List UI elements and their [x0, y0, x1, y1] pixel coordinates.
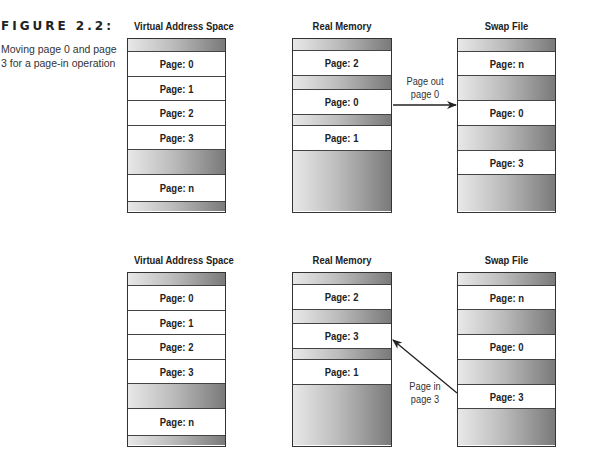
page-slot: Page: 2: [128, 334, 225, 359]
arrow-label-line: page 3: [401, 393, 449, 406]
page-slot: Page: 3: [458, 384, 555, 408]
unused-region: [293, 39, 391, 50]
page-slot: Page: 0: [458, 334, 555, 359]
unused-region: [128, 149, 225, 174]
arrow-label-line: Page out: [399, 75, 450, 88]
page-slot: Page: 0: [128, 285, 225, 310]
page-label: Page: n: [489, 292, 523, 304]
page-label: Page: 3: [325, 330, 359, 342]
page-slot: Page: 3: [128, 359, 225, 383]
real-memory-box: Page: 2 Page: 3 Page: 1: [292, 272, 392, 447]
page-label: Page: 1: [325, 366, 359, 378]
arrow-label-line: page 0: [399, 88, 450, 101]
unused-region: [458, 359, 555, 384]
unused-region: [458, 125, 555, 150]
page-label: Page: 3: [160, 132, 194, 144]
page-label: Page: 2: [160, 341, 194, 353]
arrow-label-line: Page in: [401, 380, 449, 393]
swap-file-box: Page: n Page: 0 Page: 3: [457, 38, 556, 213]
page-label: Page: 2: [325, 57, 359, 69]
page-slot: Page: 0: [128, 51, 225, 76]
swap-file-box: Page: n Page: 0 Page: 3: [457, 272, 556, 447]
unused-region: [458, 408, 555, 445]
page-label: Page: 0: [490, 107, 524, 119]
page-slot: Page: 1: [128, 310, 225, 334]
page-slot: Page: 0: [293, 89, 391, 114]
page-label: Page: 1: [160, 317, 194, 329]
column-title-virtual-address-space: Virtual Address Space: [134, 254, 219, 266]
unused-region: [128, 201, 225, 211]
column-title-real-memory: Real Memory: [299, 20, 385, 32]
page-in-label: Page in page 3: [401, 380, 449, 406]
page-label: Page: n: [159, 182, 193, 194]
page-label: Page: 3: [490, 391, 524, 403]
page-label: Page: n: [489, 58, 523, 70]
unused-region: [458, 39, 555, 51]
unused-region: [458, 174, 555, 211]
page-label: Page: 0: [160, 292, 194, 304]
page-label: Page: 2: [325, 291, 359, 303]
virtual-address-space-box: Page: 0 Page: 1 Page: 2 Page: 3 Page: n: [127, 272, 226, 447]
page-out-label: Page out page 0: [399, 75, 450, 101]
page-slot: Page: 3: [293, 323, 391, 348]
figure-label: FIGURE 2.2:: [1, 19, 114, 33]
page-label: Page: n: [159, 416, 193, 428]
page-slot: Page: 3: [128, 125, 225, 149]
unused-region: [128, 383, 225, 408]
column-title-swap-file: Swap File: [464, 20, 549, 32]
column-title-virtual-address-space: Virtual Address Space: [134, 20, 219, 32]
unused-region: [293, 114, 391, 125]
page-label: Page: 0: [325, 96, 359, 108]
page-label: Page: 0: [490, 341, 524, 353]
unused-region: [293, 150, 391, 211]
page-slot: Page: n: [128, 174, 225, 201]
page-label: Page: 0: [160, 58, 194, 70]
page-slot: Page: n: [128, 408, 225, 435]
virtual-address-space-box: Page: 0 Page: 1 Page: 2 Page: 3 Page: n: [127, 38, 226, 213]
unused-region: [128, 435, 225, 445]
unused-region: [458, 273, 555, 285]
page-label: Page: 3: [490, 157, 524, 169]
figure-caption: Moving page 0 and page 3 for a page-in o…: [1, 42, 119, 70]
unused-region: [293, 348, 391, 359]
column-title-swap-file: Swap File: [464, 254, 549, 266]
page-slot: Page: 1: [293, 125, 391, 150]
page-label: Page: 1: [325, 132, 359, 144]
unused-region: [128, 39, 225, 51]
page-label: Page: 2: [160, 107, 194, 119]
unused-region: [293, 273, 391, 284]
page-slot: Page: n: [458, 285, 555, 309]
unused-region: [128, 273, 225, 285]
page-slot: Page: 3: [458, 150, 555, 174]
unused-region: [293, 309, 391, 323]
page-slot: Page: 1: [293, 359, 391, 384]
unused-region: [293, 75, 391, 89]
page-label: Page: 1: [160, 83, 194, 95]
page-label: Page: 3: [160, 366, 194, 378]
real-memory-box: Page: 2 Page: 0 Page: 1: [292, 38, 392, 213]
page-slot: Page: n: [458, 51, 555, 75]
page-slot: Page: 0: [458, 100, 555, 125]
unused-region: [458, 309, 555, 334]
unused-region: [293, 384, 391, 445]
page-slot: Page: 2: [293, 284, 391, 309]
page-slot: Page: 2: [293, 50, 391, 75]
column-title-real-memory: Real Memory: [299, 254, 385, 266]
unused-region: [458, 75, 555, 100]
page-slot: Page: 2: [128, 100, 225, 125]
page-slot: Page: 1: [128, 76, 225, 100]
